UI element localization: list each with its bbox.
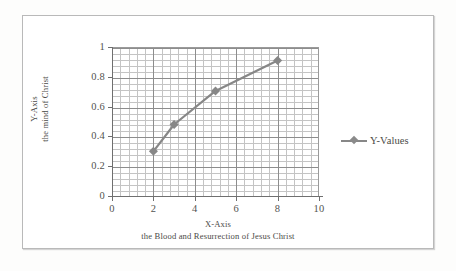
x-tick-mark xyxy=(319,197,320,201)
data-point-marker xyxy=(273,56,282,65)
diamond-marker-icon xyxy=(350,136,358,144)
y-tick-label: 0.2 xyxy=(79,161,105,172)
y-axis-title-main: Y-Axis xyxy=(29,59,40,159)
x-tick-label: 10 xyxy=(307,203,331,214)
x-axis-title-subtitle: the Blood and Resurrection of Jesus Chri… xyxy=(83,231,353,243)
x-axis-title-main: X-Axis xyxy=(83,219,353,231)
chart-frame: 00.20.40.60.81 0246810 Y-Axis the mind o… xyxy=(22,15,434,249)
x-tick-mark xyxy=(153,197,154,201)
y-axis-tick-labels: 00.20.40.60.81 xyxy=(75,16,105,250)
y-tick-label: 0.8 xyxy=(79,72,105,83)
x-tick-label: 6 xyxy=(224,203,248,214)
y-tick-label: 0.4 xyxy=(79,131,105,142)
legend-marker-icon xyxy=(341,136,367,145)
x-axis-title: X-Axis the Blood and Resurrection of Jes… xyxy=(83,219,353,242)
legend-label-y-values: Y-Values xyxy=(370,135,409,146)
x-tick-label: 0 xyxy=(100,203,124,214)
x-tick-mark xyxy=(112,197,113,201)
x-tick-label: 8 xyxy=(266,203,290,214)
x-tick-label: 4 xyxy=(183,203,207,214)
chart-legend: Y-Values xyxy=(341,135,409,146)
y-tick-label: 0.6 xyxy=(79,102,105,113)
x-tick-mark xyxy=(236,197,237,201)
x-axis-line xyxy=(108,196,323,197)
y-tick-label: 0 xyxy=(79,191,105,202)
y-axis-title-subtitle: the mind of Christ xyxy=(40,59,51,159)
y-tick-label: 1 xyxy=(79,42,105,53)
x-tick-label: 2 xyxy=(141,203,165,214)
series-line xyxy=(153,60,277,151)
y-axis-title: Y-Axis the mind of Christ xyxy=(29,59,51,159)
data-series-y-values xyxy=(112,47,319,196)
scanned-page-background: 00.20.40.60.81 0246810 Y-Axis the mind o… xyxy=(0,0,456,271)
x-tick-mark xyxy=(278,197,279,201)
x-tick-mark xyxy=(195,197,196,201)
